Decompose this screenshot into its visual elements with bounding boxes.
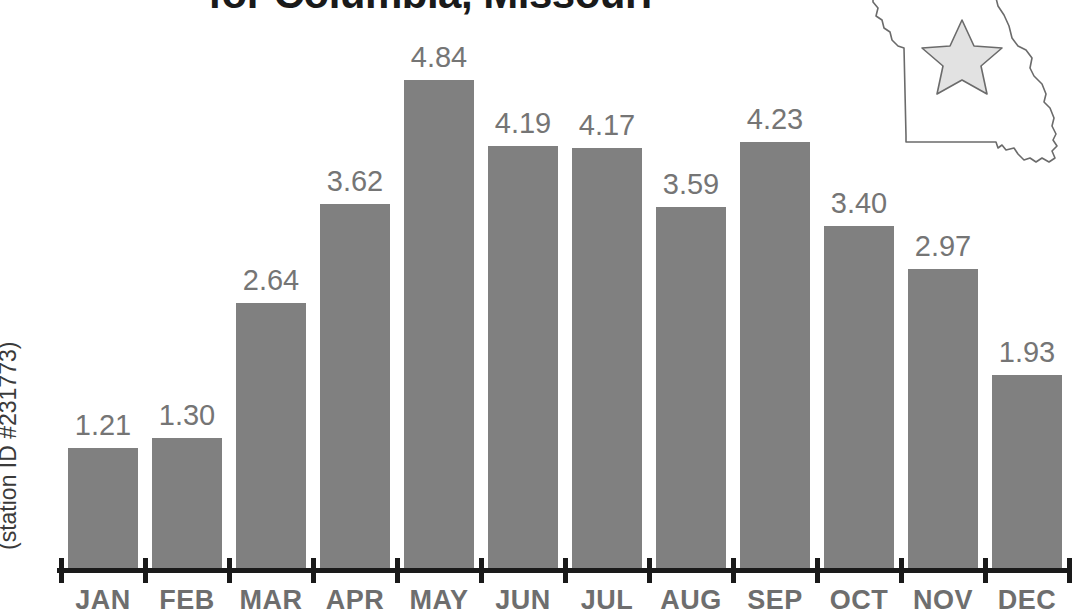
bar-value-label: 3.62: [313, 165, 397, 198]
bar: [320, 204, 390, 570]
bar: [572, 148, 642, 570]
axis-tick: [563, 558, 568, 583]
bar-value-label: 1.30: [145, 399, 229, 432]
bar: [236, 303, 306, 570]
bar: [656, 207, 726, 570]
bar: [908, 269, 978, 570]
bar-slot: 2.64: [229, 0, 313, 570]
missouri-map-inset: [846, 0, 1074, 183]
bar-value-label: 3.59: [649, 168, 733, 201]
bar-slot: 4.84: [397, 0, 481, 570]
month-label-aug: AUG: [649, 585, 733, 616]
axis-tick: [1067, 558, 1072, 583]
month-label-jul: JUL: [565, 585, 649, 616]
bar-value-label: 4.23: [733, 103, 817, 136]
axis-tick: [395, 558, 400, 583]
month-label-oct: OCT: [817, 585, 901, 616]
bar-slot: 3.59: [649, 0, 733, 570]
bar-value-label: 3.40: [817, 187, 901, 220]
bar-slot: 4.19: [481, 0, 565, 570]
axis-tick: [647, 558, 652, 583]
bar: [992, 375, 1062, 570]
bar-value-label: 4.17: [565, 109, 649, 142]
month-label-apr: APR: [313, 585, 397, 616]
month-label-nov: NOV: [901, 585, 985, 616]
bar-slot: 1.30: [145, 0, 229, 570]
bar-value-label: 1.21: [61, 409, 145, 442]
axis-tick: [983, 558, 988, 583]
bar: [740, 142, 810, 570]
axis-tick: [227, 558, 232, 583]
axis-tick: [59, 558, 64, 583]
axis-tick: [815, 558, 820, 583]
bar-value-label: 4.19: [481, 107, 565, 140]
bar-value-label: 1.93: [985, 336, 1069, 369]
station-id-caption: (station ID #231773): [0, 350, 22, 550]
axis-tick: [479, 558, 484, 583]
month-label-sep: SEP: [733, 585, 817, 616]
x-axis-tick-labels: JANFEBMARAPRMAYJUNJULAUGSEPOCTNOVDEC: [61, 585, 1069, 616]
month-label-feb: FEB: [145, 585, 229, 616]
bar: [152, 438, 222, 570]
month-label-mar: MAR: [229, 585, 313, 616]
axis-tick: [311, 558, 316, 583]
bar-slot: 4.23: [733, 0, 817, 570]
month-label-jun: JUN: [481, 585, 565, 616]
bar: [68, 448, 138, 570]
bar: [404, 80, 474, 570]
month-label-may: MAY: [397, 585, 481, 616]
bar-value-label: 2.64: [229, 264, 313, 297]
bar-slot: 3.62: [313, 0, 397, 570]
axis-tick: [731, 558, 736, 583]
axis-tick: [143, 558, 148, 583]
axis-tick: [899, 558, 904, 583]
month-label-jan: JAN: [61, 585, 145, 616]
bar-slot: 1.21: [61, 0, 145, 570]
bar: [488, 146, 558, 570]
bar-value-label: 2.97: [901, 230, 985, 263]
bar: [824, 226, 894, 570]
bar-value-label: 4.84: [397, 41, 481, 74]
bar-slot: 4.17: [565, 0, 649, 570]
chart-page: for Columbia, Missouri (station ID #2317…: [0, 0, 1074, 616]
month-label-dec: DEC: [985, 585, 1069, 616]
